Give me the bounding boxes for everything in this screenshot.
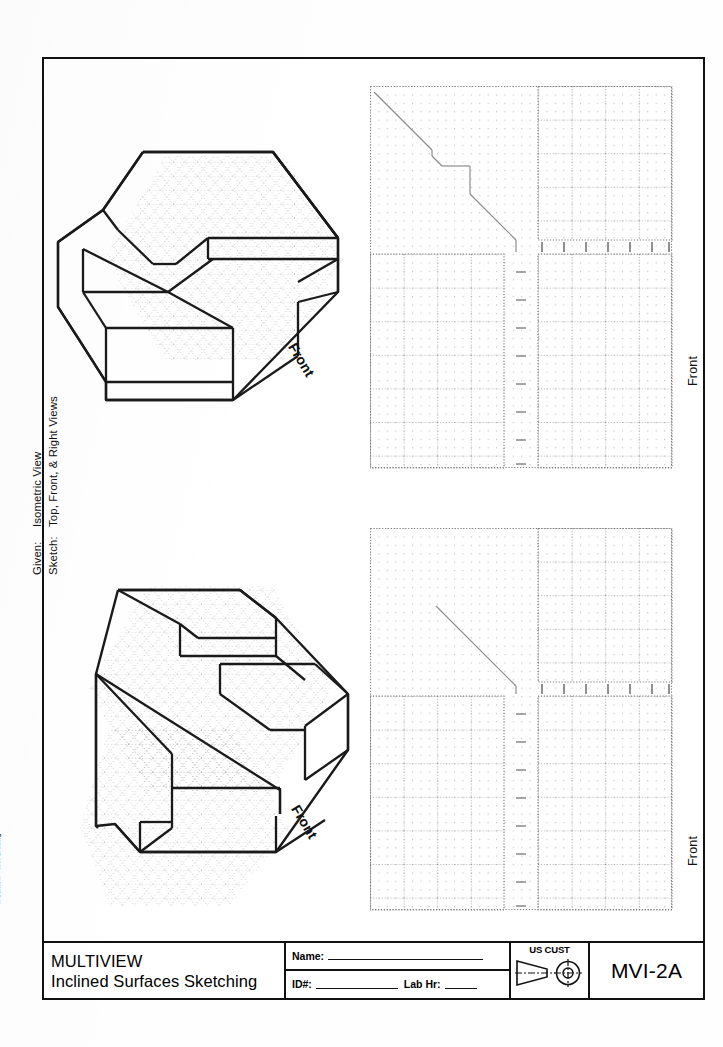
isometric-figure-1: Front [58,142,378,462]
sketch-grid-2[interactable]: Front [370,528,678,914]
id-field-label: ID#: [292,978,312,990]
instruction-given-label: Given: [30,527,46,575]
lab-hr-field-input[interactable] [445,988,477,989]
title-block-topic: Inclined Surfaces Sketching [51,971,284,991]
instruction-given-value: Isometric View [31,452,43,527]
grid-front-label-2: Front [686,836,700,866]
lab-hr-field-label: Lab Hr: [404,978,441,990]
name-field-label: Name: [292,950,324,962]
instruction-sketch-value: Top, Front, & Right Views [47,396,59,527]
title-block-subject: MULTIVIEW [51,951,284,971]
third-angle-projection-icon [513,955,587,991]
grid-front-label-1: Front [686,356,700,386]
instruction-given-row: Given:Isometric View [30,396,46,575]
worksheet-sheet: T. Sexton ● MVI-2A.dwg Given:Isometric V… [0,0,723,1047]
projection-symbol-cell: US CUST [511,943,590,998]
sheet-code: MVI-2A [611,959,682,983]
title-block-subject-cell: MULTIVIEW Inclined Surfaces Sketching [44,943,286,998]
sketch-grid-1[interactable]: Front [370,86,678,472]
instruction-sketch-label: Sketch: [46,527,62,575]
projection-units-label: US CUST [529,944,569,955]
name-field-input[interactable] [328,959,483,960]
title-block-fields-cell: Name: ID#: Lab Hr: [286,943,511,998]
drawing-file-note: T. Sexton ● MVI-2A.dwg [0,785,8,905]
sheet-code-cell: MVI-2A [590,943,703,998]
id-field-input[interactable] [316,988,398,989]
title-block: MULTIVIEW Inclined Surfaces Sketching Na… [42,941,705,1000]
id-lab-field-row[interactable]: ID#: Lab Hr: [286,971,509,999]
instruction-block: Given:Isometric View Sketch:Top, Front, … [30,396,61,575]
name-field-row[interactable]: Name: [286,943,509,971]
isometric-figure-2: Front [80,576,380,906]
